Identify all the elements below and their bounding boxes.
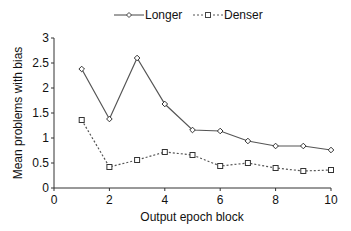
x-tick-label: 4 bbox=[161, 193, 168, 207]
x-tick-label: 0 bbox=[51, 193, 58, 207]
square-marker-icon bbox=[206, 13, 211, 18]
y-tick-label: 3 bbox=[42, 31, 49, 45]
legend-item-denser: Denser bbox=[193, 8, 263, 22]
y-tick-label: 2 bbox=[42, 81, 49, 95]
square-marker-icon bbox=[190, 153, 195, 158]
axes: 00.511.522.530246810 bbox=[32, 31, 338, 207]
x-tick-label: 8 bbox=[272, 193, 279, 207]
x-axis-label: Output epoch block bbox=[140, 210, 244, 224]
x-tick-label: 6 bbox=[217, 193, 224, 207]
square-marker-icon bbox=[245, 161, 250, 166]
legend-item-longer: Longer bbox=[114, 8, 182, 22]
y-tick-label: 1.5 bbox=[32, 106, 49, 120]
diamond-marker-icon bbox=[217, 128, 223, 134]
chart-canvas: Longer Denser 00.511.522.530246810 Mean … bbox=[0, 0, 351, 231]
series-line bbox=[82, 58, 331, 150]
diamond-marker-icon bbox=[245, 138, 251, 144]
x-tick-label: 2 bbox=[106, 193, 113, 207]
square-marker-icon bbox=[135, 158, 140, 163]
diamond-marker-icon bbox=[107, 116, 113, 122]
y-tick-label: 0 bbox=[42, 181, 49, 195]
diamond-marker-icon bbox=[273, 143, 279, 149]
legend: Longer Denser bbox=[114, 8, 263, 22]
series-longer bbox=[79, 55, 334, 153]
line-chart: Longer Denser 00.511.522.530246810 Mean … bbox=[0, 0, 351, 231]
y-axis-label: Mean problems with bias bbox=[11, 47, 25, 180]
diamond-marker-icon bbox=[134, 55, 140, 61]
square-marker-icon bbox=[301, 169, 306, 174]
legend-label-longer: Longer bbox=[145, 8, 182, 22]
diamond-marker-icon bbox=[328, 147, 334, 153]
diamond-marker-icon bbox=[79, 66, 85, 72]
diamond-marker-icon bbox=[301, 143, 307, 149]
y-tick-label: 1 bbox=[42, 131, 49, 145]
y-tick-label: 0.5 bbox=[32, 156, 49, 170]
x-tick-label: 10 bbox=[324, 193, 338, 207]
square-marker-icon bbox=[107, 165, 112, 170]
square-marker-icon bbox=[162, 150, 167, 155]
square-marker-icon bbox=[273, 166, 278, 171]
diamond-marker-icon bbox=[127, 13, 132, 18]
series-group bbox=[79, 55, 334, 173]
legend-label-denser: Denser bbox=[224, 8, 263, 22]
square-marker-icon bbox=[79, 118, 84, 123]
square-marker-icon bbox=[218, 164, 223, 169]
square-marker-icon bbox=[329, 168, 334, 173]
y-tick-label: 2.5 bbox=[32, 56, 49, 70]
